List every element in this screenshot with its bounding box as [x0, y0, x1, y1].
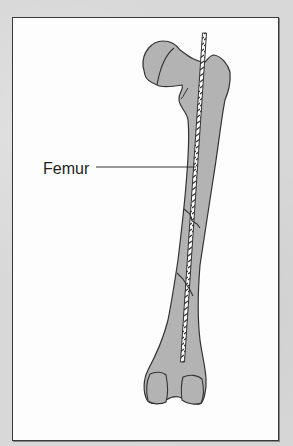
femur-illustration [0, 0, 293, 446]
femur-label: Femur [43, 160, 89, 178]
lateral-condyle [181, 375, 203, 404]
medial-condyle [147, 372, 168, 404]
femur-bone [143, 41, 230, 404]
